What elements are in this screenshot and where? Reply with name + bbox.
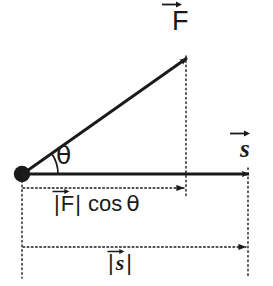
force-component-angle-symbol: θ: [126, 191, 139, 216]
diagram-canvas: F s θ | F |cosθ | s: [0, 0, 273, 286]
vector-diagram-svg: [0, 0, 273, 286]
origin-point-dot: [14, 166, 30, 182]
displacement-magnitude-symbol: s: [116, 250, 125, 275]
force-vector-label: F: [172, 8, 189, 35]
force-vector-symbol: F: [172, 6, 189, 36]
abs-bar-close: |: [75, 191, 81, 216]
displacement-vector-symbol: s: [240, 135, 250, 162]
angle-label: θ: [56, 143, 71, 168]
abs-bar-close: |: [126, 250, 132, 275]
force-component-symbol: F: [61, 191, 74, 216]
abs-bar-open: |: [108, 250, 114, 275]
cosine-text: cos: [88, 191, 122, 216]
displacement-magnitude-label: | s |: [108, 252, 132, 274]
displacement-vector-label: s: [240, 136, 250, 161]
abs-bar-open: |: [54, 191, 60, 216]
force-component-label: | F |cosθ: [54, 193, 140, 215]
force-vector-arrow: [24, 58, 187, 173]
